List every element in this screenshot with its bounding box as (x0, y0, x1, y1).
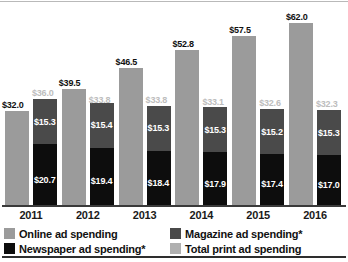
legend-swatch-total-print (170, 243, 181, 254)
bar-online[interactable] (175, 50, 199, 205)
top-divider (0, 1, 348, 2)
bar-group: $39.5$33.8$15.4$19.4 (62, 6, 114, 205)
legend-item-total-print[interactable]: Total print ad spending (170, 242, 301, 255)
bar-value-label-magazine: $15.2 (261, 127, 283, 137)
bar-value-label-online: $32.0 (2, 100, 24, 110)
bar-value-label-newspaper: $19.4 (91, 176, 113, 186)
chart-container: $32.0$36.0$15.3$20.7$39.5$33.8$15.4$19.4… (0, 0, 348, 262)
legend-item-newspaper[interactable]: Newspaper ad spending* (4, 242, 145, 255)
x-axis-label-2013: 2013 (113, 209, 177, 221)
chart-legend: Online ad spending Newspaper ad spending… (4, 227, 344, 255)
bar-value-label-magazine: $15.3 (34, 117, 56, 127)
bar-group: $62.0$32.3$15.3$17.0 (289, 6, 341, 205)
bar-value-label-online: $39.5 (59, 78, 81, 88)
bar-value-label-online: $46.5 (116, 57, 138, 67)
plot-area: $32.0$36.0$15.3$20.7$39.5$33.8$15.4$19.4… (0, 6, 348, 207)
bar-value-label-newspaper: $17.0 (318, 180, 340, 190)
bar-group: $32.0$36.0$15.3$20.7 (5, 6, 57, 205)
legend-swatch-newspaper (4, 243, 15, 254)
bar-value-label-total-print: $32.6 (259, 98, 281, 108)
bar-online[interactable] (232, 36, 256, 205)
bar-value-label-total-print: $36.0 (32, 88, 54, 98)
bar-value-label-total-print: $33.8 (146, 95, 168, 105)
bar-value-label-magazine: $15.4 (91, 120, 113, 130)
legend-swatch-magazine (170, 228, 181, 239)
legend-label-newspaper: Newspaper ad spending* (19, 243, 145, 255)
legend-label-online: Online ad spending (19, 228, 117, 240)
bar-online[interactable] (289, 23, 313, 205)
bar-online[interactable] (5, 111, 29, 205)
bar-value-label-total-print: $33.8 (89, 95, 111, 105)
bar-value-label-newspaper: $17.9 (204, 179, 226, 189)
x-axis-label-2015: 2015 (226, 209, 290, 221)
bar-group: $46.5$33.8$15.3$18.4 (119, 6, 171, 205)
bar-group: $57.5$32.6$15.2$17.4 (232, 6, 284, 205)
bottom-divider (2, 256, 346, 258)
bar-value-label-newspaper: $20.7 (34, 175, 56, 185)
x-axis-label-2011: 2011 (0, 209, 63, 221)
bar-online[interactable] (119, 68, 143, 205)
bar-value-label-magazine: $15.3 (318, 128, 340, 138)
legend-swatch-online (4, 228, 15, 239)
bar-value-label-total-print: $32.3 (316, 99, 338, 109)
x-axis-label-2014: 2014 (169, 209, 233, 221)
bar-value-label-newspaper: $17.4 (261, 179, 283, 189)
legend-item-magazine[interactable]: Magazine ad spending* (170, 227, 302, 240)
x-axis-tick-labels: 201120122013201420152016 (0, 209, 348, 225)
bar-group: $52.8$33.1$15.3$17.9 (175, 6, 227, 205)
bar-value-label-online: $52.8 (172, 39, 194, 49)
x-axis-label-2016: 2016 (283, 209, 347, 221)
bar-online[interactable] (62, 89, 86, 205)
legend-item-online[interactable]: Online ad spending (4, 227, 117, 240)
bar-value-label-magazine: $15.3 (148, 123, 170, 133)
bar-value-label-total-print: $33.1 (202, 97, 224, 107)
bar-value-label-magazine: $15.3 (204, 125, 226, 135)
x-axis-line (2, 205, 346, 207)
bar-value-label-online: $57.5 (229, 25, 251, 35)
x-axis-label-2012: 2012 (56, 209, 120, 221)
bar-value-label-online: $62.0 (286, 12, 308, 22)
bar-value-label-newspaper: $18.4 (148, 178, 170, 188)
legend-label-magazine: Magazine ad spending* (185, 228, 302, 240)
legend-label-total-print: Total print ad spending (185, 243, 301, 255)
